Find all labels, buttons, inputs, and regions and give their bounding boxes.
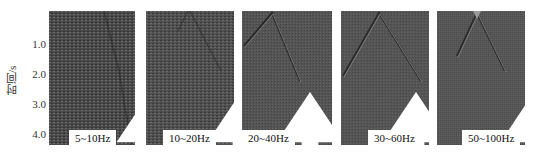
y-tick: 2.0 xyxy=(24,68,46,80)
seismic-panel-50-100hz: 50~100Hz xyxy=(437,11,525,145)
seismic-panel-10-20hz: 10~20Hz xyxy=(146,11,234,145)
seismic-panel-5-10hz: 5~10Hz xyxy=(49,11,135,145)
panel-label: 30~60Hz xyxy=(368,130,421,145)
y-tick: 1.0 xyxy=(24,38,46,50)
seismic-panel-20-40hz: 20~40Hz xyxy=(242,11,332,145)
y-tick: 3.0 xyxy=(24,98,46,110)
panel-label: 20~40Hz xyxy=(242,130,295,145)
panel-label: 10~20Hz xyxy=(163,130,216,145)
panel-label: 5~10Hz xyxy=(69,130,116,145)
seismic-panel-30-60hz: 30~60Hz xyxy=(341,11,429,145)
panel-label: 50~100Hz xyxy=(462,130,520,145)
y-tick: 4.0 xyxy=(24,128,46,140)
y-axis-label: 时间/s xyxy=(4,60,18,100)
